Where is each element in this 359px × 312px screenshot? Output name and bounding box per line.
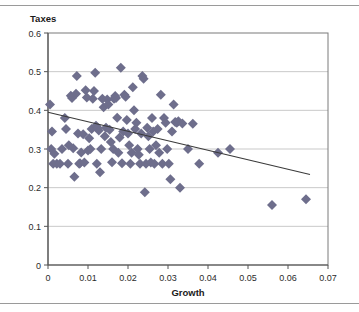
data-point <box>194 159 204 169</box>
x-tick-label: 0.06 <box>279 273 297 283</box>
data-point <box>90 68 100 78</box>
y-tick-label: 0.6 <box>28 29 41 39</box>
y-tick-label: 0.2 <box>28 183 41 193</box>
x-tick-label: 0.01 <box>79 273 97 283</box>
data-point <box>89 86 99 96</box>
data-point <box>61 124 71 134</box>
scatter-plot: 00.010.020.030.040.050.060.07 00.10.20.3… <box>0 0 359 312</box>
data-point <box>301 194 311 204</box>
data-point <box>96 144 106 154</box>
data-point <box>63 159 73 169</box>
data-point <box>129 105 139 115</box>
data-point <box>156 90 166 100</box>
data-point <box>267 200 277 210</box>
data-point <box>60 113 70 123</box>
x-tick-label: 0.07 <box>319 273 337 283</box>
x-tick-label: 0.02 <box>119 273 137 283</box>
data-point <box>92 159 102 169</box>
data-point <box>165 174 175 184</box>
data-point <box>45 100 55 110</box>
y-tick-label: 0.5 <box>28 67 41 77</box>
data-point <box>169 100 179 110</box>
y-axis-title: Taxes <box>30 13 56 24</box>
data-point <box>140 187 150 197</box>
data-point <box>72 71 82 81</box>
y-tick-labels-group: 00.10.20.30.40.50.6 <box>28 29 41 271</box>
data-point <box>147 113 157 123</box>
data-point <box>69 172 79 182</box>
data-point <box>167 127 177 137</box>
data-point <box>175 183 185 193</box>
x-tick-label: 0.05 <box>239 273 257 283</box>
y-tick-label: 0 <box>36 261 41 271</box>
data-point <box>81 85 91 95</box>
data-point <box>95 167 105 177</box>
x-tick-label: 0.03 <box>159 273 177 283</box>
data-point <box>122 115 132 125</box>
data-point <box>107 157 117 167</box>
y-tick-label: 0.1 <box>28 222 41 232</box>
chart-figure: 00.010.020.030.040.050.060.07 00.10.20.3… <box>0 0 359 312</box>
x-tick-label: 0 <box>45 273 50 283</box>
y-tick-label: 0.3 <box>28 145 41 155</box>
y-tick-label: 0.4 <box>28 106 41 116</box>
data-point <box>128 82 138 92</box>
data-point <box>125 159 135 169</box>
data-point <box>188 119 198 129</box>
data-point <box>225 144 235 154</box>
data-point <box>117 158 127 168</box>
data-point <box>164 159 174 169</box>
data-point <box>112 113 122 123</box>
x-tick-labels-group: 00.010.020.030.040.050.060.07 <box>45 273 336 283</box>
x-axis-title: Growth <box>171 287 204 298</box>
x-tick-label: 0.04 <box>199 273 217 283</box>
